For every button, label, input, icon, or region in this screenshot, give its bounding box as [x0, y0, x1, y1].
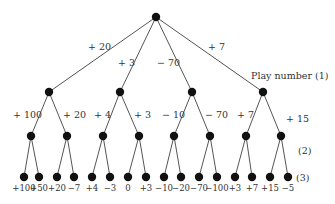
edge-label: + 7 [237, 109, 254, 120]
edge-root-to-level1 [156, 17, 263, 92]
edge-level2-to-leaf [174, 136, 181, 177]
leaf-node [160, 173, 168, 181]
leaf-node [195, 173, 203, 181]
leaf-value: −20 [172, 183, 190, 193]
edge-label: + 20 [88, 41, 111, 52]
game-tree-diagram: + 20+ 3− 70+ 7+ 100+ 20+ 4+ 3− 10− 70+ 7… [0, 0, 335, 204]
edge-level2-to-leaf [199, 136, 210, 177]
edge-root-to-level1 [156, 17, 192, 92]
leaf-node [124, 173, 132, 181]
edge-label: − 70 [205, 109, 228, 120]
leaf-node [177, 173, 185, 181]
leaf-node [142, 173, 150, 181]
leaf-value: −100 [205, 183, 228, 193]
leaf-node [248, 173, 256, 181]
leaf-value: −5 [282, 183, 295, 193]
edge-level2-to-leaf [67, 136, 74, 177]
tree-edges [24, 17, 288, 177]
level1-node [116, 88, 124, 96]
level-label: (2) [298, 145, 311, 156]
level-label: (3) [296, 172, 309, 183]
edge-level2-to-leaf [103, 136, 110, 177]
leaf-value: 0 [125, 183, 130, 193]
leaf-node [213, 173, 221, 181]
leaf-value: +3 [140, 183, 153, 193]
leaf-node [284, 173, 292, 181]
leaf-node [88, 173, 96, 181]
edge-label: + 15 [286, 113, 309, 124]
leaf-node [20, 173, 28, 181]
edge-label: + 20 [63, 109, 86, 120]
level2-node [170, 132, 178, 140]
leaf-value: +50 [30, 183, 48, 193]
leaf-node [53, 173, 61, 181]
leaf-node [231, 173, 239, 181]
edge-root-to-level1 [49, 17, 156, 92]
level2-node [277, 132, 285, 140]
level2-node [135, 132, 143, 140]
edge-level2-to-leaf [281, 136, 288, 177]
edge-label: + 4 [94, 109, 111, 120]
edge-level1-to-level2 [263, 92, 281, 136]
level2-node [99, 132, 107, 140]
leaf-value: +4 [86, 183, 99, 193]
edge-level2-to-leaf [210, 136, 217, 177]
edge-level2-to-leaf [92, 136, 103, 177]
tree-nodes [20, 13, 292, 181]
level-label: Play number (1) [251, 70, 328, 81]
leaf-node [266, 173, 274, 181]
edge-level2-to-leaf [235, 136, 246, 177]
level1-node [259, 88, 267, 96]
leaf-node [106, 173, 114, 181]
edge-label: + 3 [118, 57, 135, 68]
edge-label: − 10 [162, 109, 185, 120]
edge-level2-to-leaf [24, 136, 31, 177]
level2-node [63, 132, 71, 140]
edge-level2-to-leaf [246, 136, 252, 177]
edge-level2-to-leaf [57, 136, 67, 177]
leaf-node [70, 173, 78, 181]
edge-label: + 100 [13, 109, 42, 120]
leaf-value: −3 [104, 183, 117, 193]
level1-node [188, 88, 196, 96]
level1-node [45, 88, 53, 96]
leaf-value: +3 [229, 183, 242, 193]
leaf-value: +7 [246, 183, 259, 193]
leaf-value-labels: +100+50+20−7+4−30+3−10−20−70−100+3+7+15−… [12, 183, 294, 193]
edge-label: + 3 [134, 109, 151, 120]
edge-level2-to-leaf [31, 136, 39, 177]
edge-label: + 7 [208, 41, 225, 52]
leaf-node [35, 173, 43, 181]
edge-root-to-level1 [120, 17, 156, 92]
level-labels: Play number (1)(2)(3) [251, 70, 328, 183]
level2-node [242, 132, 250, 140]
edge-level2-to-leaf [164, 136, 174, 177]
edge-level2-to-leaf [128, 136, 139, 177]
edge-label: − 70 [157, 57, 180, 68]
edge-level2-to-leaf [139, 136, 146, 177]
edge-level2-to-leaf [270, 136, 281, 177]
leaf-value: −7 [68, 183, 81, 193]
root-node [152, 13, 160, 21]
level2-node [206, 132, 214, 140]
level2-node [27, 132, 35, 140]
leaf-value: +15 [261, 183, 279, 193]
leaf-value: +20 [48, 183, 66, 193]
leaf-value: −10 [155, 183, 173, 193]
